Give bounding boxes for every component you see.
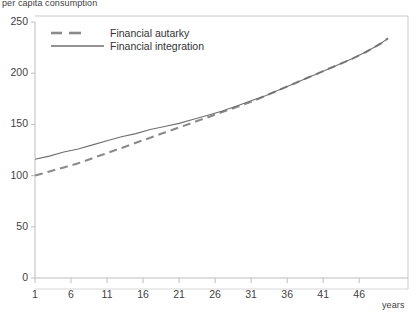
y-tick-label: 0 xyxy=(0,271,28,283)
y-tick-label: 150 xyxy=(0,117,28,129)
x-tick-label: 11 xyxy=(94,288,120,300)
x-tick-label: 1 xyxy=(22,288,48,300)
x-axis-ticks xyxy=(35,278,359,283)
y-axis-ticks xyxy=(31,22,35,278)
y-tick-label: 100 xyxy=(0,169,28,181)
x-tick-label: 41 xyxy=(310,288,336,300)
y-tick-label: 250 xyxy=(0,15,28,27)
x-tick-label: 36 xyxy=(274,288,300,300)
chart-container: per capita consumption years Financial a… xyxy=(0,0,420,318)
series-line-financial-autarky xyxy=(35,38,388,175)
chart-plot-area xyxy=(0,0,420,318)
y-tick-label: 200 xyxy=(0,66,28,78)
x-tick-label: 31 xyxy=(238,288,264,300)
series-line-financial-integration xyxy=(35,38,388,159)
x-tick-label: 21 xyxy=(166,288,192,300)
x-tick-label: 16 xyxy=(130,288,156,300)
legend-label-financial-autarky: Financial autarky xyxy=(110,27,189,39)
y-tick-label: 50 xyxy=(0,220,28,232)
legend-label-financial-integration: Financial integration xyxy=(110,40,204,52)
x-tick-label: 26 xyxy=(202,288,228,300)
x-tick-label: 6 xyxy=(58,288,84,300)
x-tick-label: 46 xyxy=(346,288,372,300)
